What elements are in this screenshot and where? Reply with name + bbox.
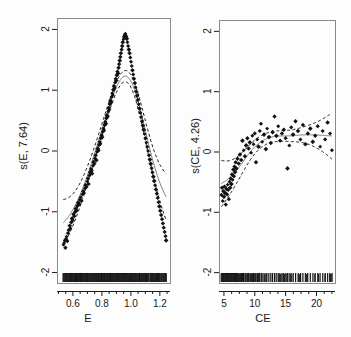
y-tick-label: 1 xyxy=(40,87,51,93)
x-tick-label: 0.6 xyxy=(66,298,80,309)
data-point xyxy=(281,127,286,132)
data-point xyxy=(276,124,280,128)
data-point xyxy=(150,170,154,174)
data-point xyxy=(262,132,267,137)
data-point xyxy=(245,136,250,141)
smooth-fit-line xyxy=(63,76,166,223)
data-point xyxy=(316,124,320,128)
data-point xyxy=(280,131,284,135)
data-point xyxy=(148,161,153,166)
data-point-group xyxy=(61,32,168,250)
data-point xyxy=(330,148,334,152)
data-point xyxy=(151,174,156,179)
data-point xyxy=(285,166,290,171)
plot-right-canvas: -2-10125101520 xyxy=(175,0,351,337)
data-point xyxy=(126,44,130,48)
data-point xyxy=(313,134,317,138)
data-point xyxy=(119,51,124,56)
data-point xyxy=(158,208,163,213)
confidence-band-line xyxy=(221,141,331,206)
data-point xyxy=(153,183,157,187)
data-point xyxy=(221,199,225,203)
x-tick-label: 10 xyxy=(249,298,261,309)
data-point xyxy=(270,130,275,135)
data-point-group xyxy=(219,114,334,206)
data-point xyxy=(287,143,291,147)
data-point xyxy=(323,137,327,141)
data-point xyxy=(298,137,302,141)
data-point xyxy=(318,145,322,149)
data-point xyxy=(129,60,133,64)
data-point xyxy=(131,72,135,76)
y-axis-title-left: s(E, 7.64) xyxy=(17,101,29,191)
data-point xyxy=(120,48,124,52)
x-tick-label: 1.0 xyxy=(124,298,138,309)
data-point xyxy=(226,183,230,187)
data-point xyxy=(258,129,262,133)
data-point xyxy=(130,68,135,73)
data-point xyxy=(284,136,288,140)
data-point xyxy=(148,157,153,162)
data-point xyxy=(278,139,282,143)
y-tick-label: -1 xyxy=(40,206,51,215)
data-point xyxy=(162,226,166,230)
data-point xyxy=(252,142,256,146)
y-tick-label: 0 xyxy=(202,148,213,154)
data-point xyxy=(243,154,247,158)
data-point xyxy=(157,204,162,209)
data-point xyxy=(127,51,132,56)
data-point xyxy=(253,131,257,135)
data-point xyxy=(308,126,313,131)
x-tick-label: 1.2 xyxy=(153,298,167,309)
data-point xyxy=(296,129,301,134)
y-tick-label: -2 xyxy=(40,267,51,276)
data-point xyxy=(272,114,276,118)
data-point xyxy=(118,55,122,59)
data-point xyxy=(137,102,141,106)
data-point xyxy=(116,66,121,71)
rug-plot xyxy=(221,273,332,282)
y-tick-label: -1 xyxy=(202,207,213,216)
data-point xyxy=(156,196,160,200)
data-point xyxy=(127,47,132,52)
data-point xyxy=(227,197,231,201)
data-point xyxy=(159,213,163,217)
data-point xyxy=(66,231,70,235)
data-point xyxy=(160,217,164,221)
gam-partial-effect-figure: -2-10120.60.81.01.2 E s(E, 7.64) -2-1012… xyxy=(0,0,351,337)
data-point xyxy=(321,129,325,133)
x-tick-label: 15 xyxy=(280,298,292,309)
data-point xyxy=(259,122,263,126)
data-point xyxy=(164,238,169,243)
x-tick-label: 0.8 xyxy=(95,298,109,309)
y-axis-title-right: s(CE, 4.26) xyxy=(189,101,201,191)
x-tick-label: 20 xyxy=(311,298,323,309)
data-point xyxy=(235,156,240,161)
plot-panel-right: -2-10125101520 CE s(CE, 4.26) xyxy=(175,0,351,337)
data-point xyxy=(289,125,293,129)
rug-plot xyxy=(63,273,166,282)
y-tick-label: 2 xyxy=(40,26,51,32)
data-point xyxy=(163,230,167,234)
data-point xyxy=(161,221,165,225)
data-point xyxy=(120,40,125,45)
y-tick-label: 0 xyxy=(40,147,51,153)
x-axis-title-left: E xyxy=(0,312,176,324)
data-point xyxy=(246,146,250,150)
data-point xyxy=(163,234,167,238)
data-point xyxy=(117,58,122,63)
data-point xyxy=(250,134,254,138)
data-point xyxy=(325,120,330,125)
data-point xyxy=(255,137,259,141)
x-tick-label: 5 xyxy=(221,298,227,309)
data-point xyxy=(274,133,279,138)
data-point xyxy=(254,160,259,165)
data-point xyxy=(293,119,298,124)
data-point xyxy=(328,131,332,135)
y-tick-label: -2 xyxy=(202,267,213,276)
data-point xyxy=(247,140,252,145)
data-point xyxy=(264,147,269,152)
data-point xyxy=(128,55,132,59)
data-point xyxy=(269,141,273,145)
data-point xyxy=(117,62,121,66)
